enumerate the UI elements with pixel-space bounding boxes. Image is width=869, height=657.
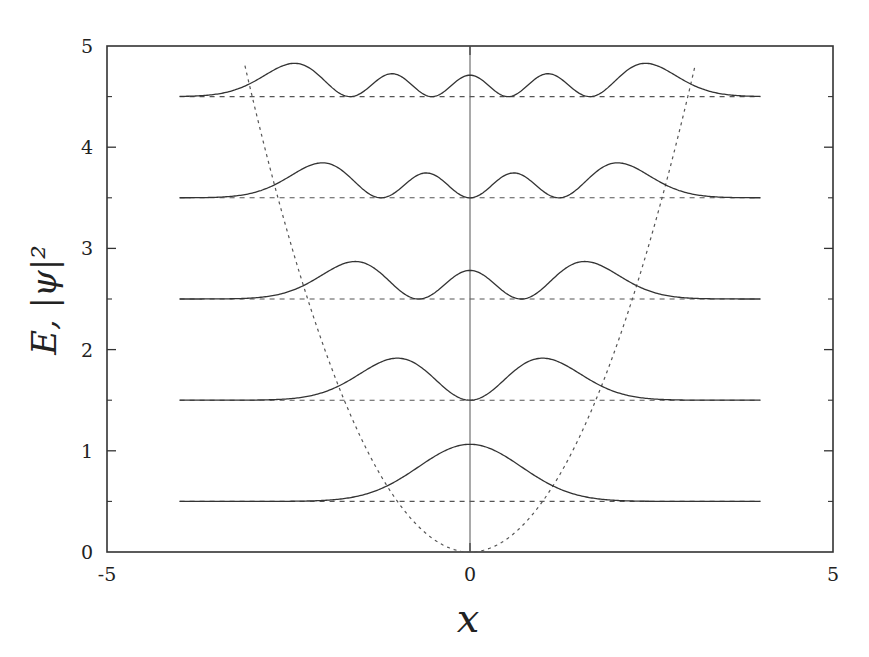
x-tick-label: 5 xyxy=(827,563,839,585)
y-axis-label: E, |ψ|² xyxy=(24,245,64,356)
x-tick-label: 0 xyxy=(464,563,476,585)
y-tick-label: 3 xyxy=(81,237,93,259)
y-tick-label: 0 xyxy=(81,541,93,563)
x-axis-label: x xyxy=(457,595,480,641)
y-tick-label: 2 xyxy=(81,339,93,361)
y-tick-label: 4 xyxy=(81,136,93,158)
y-tick-label: 5 xyxy=(81,35,93,57)
x-tick-label: -5 xyxy=(98,563,117,585)
chart: 012345-505 x E, |ψ|² xyxy=(0,0,869,657)
y-tick-label: 1 xyxy=(81,440,93,462)
tick-labels: 012345-505 xyxy=(81,35,839,585)
